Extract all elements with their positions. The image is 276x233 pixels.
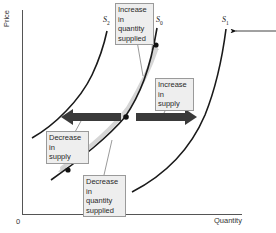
point-middle bbox=[123, 114, 129, 120]
annotation-line: Decrease in bbox=[49, 133, 86, 152]
annotation-increase-supply: Increase in supply bbox=[155, 78, 194, 111]
annotation-line: Increase in bbox=[118, 5, 151, 24]
annotation-line: supply bbox=[158, 99, 191, 109]
annotation-line: Increase in bbox=[158, 80, 191, 99]
annotation-line: supplied bbox=[86, 206, 123, 216]
curve-label-s2: S2 bbox=[103, 15, 110, 26]
decrease-supply-arrow-icon bbox=[61, 109, 121, 125]
origin-label: 0 bbox=[16, 217, 20, 226]
curve-label-s1-sub: 1 bbox=[226, 20, 229, 26]
point-upper bbox=[153, 42, 158, 47]
annotation-line: quantity bbox=[118, 24, 151, 34]
supply-curve-s1 bbox=[132, 29, 226, 192]
annotation-decrease-supply: Decrease in supply bbox=[46, 131, 89, 164]
curve-label-s2-sub: 2 bbox=[107, 20, 110, 26]
leader-decrease-qs bbox=[104, 140, 112, 175]
x-axis-label: Quantity bbox=[214, 216, 242, 225]
annotation-line: Decrease in bbox=[86, 177, 123, 196]
curve-label-s0-sub: 0 bbox=[160, 20, 163, 26]
annotation-line: supplied bbox=[118, 34, 151, 44]
curve-label-s0: S0 bbox=[156, 15, 163, 26]
point-lower bbox=[65, 167, 70, 172]
curve-label-s1: S1 bbox=[222, 15, 229, 26]
annotation-decrease-quantity-supplied: Decrease in quantity supplied bbox=[83, 175, 126, 217]
annotation-line: quantity bbox=[86, 196, 123, 206]
annotation-increase-quantity-supplied: Increase in quantity supplied bbox=[115, 3, 154, 45]
annotation-line: supply bbox=[49, 152, 86, 162]
y-axis-label: Price bbox=[2, 10, 11, 27]
increase-supply-arrow-icon bbox=[136, 109, 197, 125]
